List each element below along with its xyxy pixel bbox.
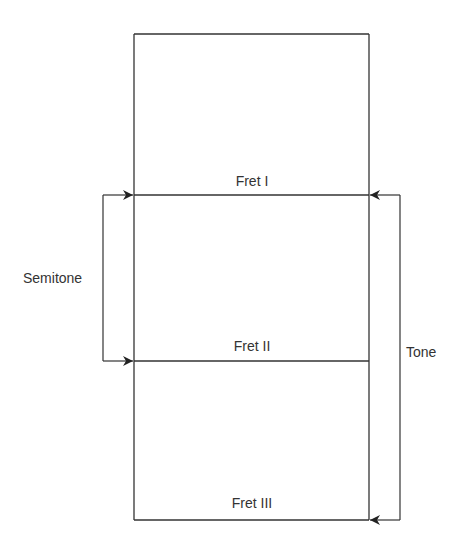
fingerboard <box>134 34 369 520</box>
fret-1-label: Fret I <box>236 173 269 189</box>
semitone-label: Semitone <box>23 270 82 286</box>
fret-2-label: Fret II <box>234 338 271 354</box>
tone-bracket <box>370 195 400 520</box>
fret-interval-diagram: Fret I Fret II Fret III Semitone Tone <box>0 0 465 546</box>
fret-3-label: Fret III <box>232 495 272 511</box>
semitone-bracket <box>103 195 133 361</box>
tone-label: Tone <box>406 344 437 360</box>
